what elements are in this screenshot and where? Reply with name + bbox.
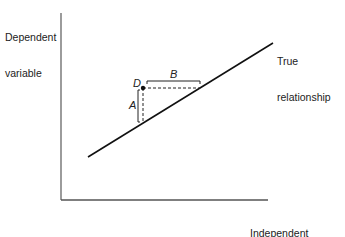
a-bracket bbox=[138, 90, 140, 122]
line-label-line1: True bbox=[277, 55, 331, 67]
true-relationship-line bbox=[88, 43, 273, 157]
point-d-marker bbox=[141, 86, 145, 90]
y-axis-label-line2: variable bbox=[5, 67, 56, 79]
true-relationship-label: True relationship bbox=[277, 31, 331, 115]
y-axis-label-line1: Dependent bbox=[5, 31, 56, 43]
a-label: A bbox=[129, 99, 136, 111]
line-label-line2: relationship bbox=[277, 91, 331, 103]
b-bracket bbox=[147, 81, 200, 84]
x-axis-label-line1: Independent bbox=[250, 227, 308, 237]
x-axis-label: Independent variable bbox=[250, 203, 308, 237]
y-axis-label: Dependent variable bbox=[5, 7, 56, 91]
b-label: B bbox=[170, 68, 177, 80]
point-d-label: D bbox=[133, 77, 141, 89]
